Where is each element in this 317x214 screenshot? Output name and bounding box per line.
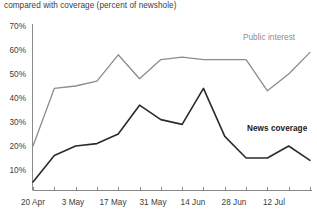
series-label-news-coverage: News coverage <box>247 124 307 133</box>
chart-container: compared with coverage (percent of newsh… <box>0 0 317 214</box>
line-news-coverage <box>33 88 310 182</box>
series-label-public-interest: Public interest <box>243 33 295 42</box>
